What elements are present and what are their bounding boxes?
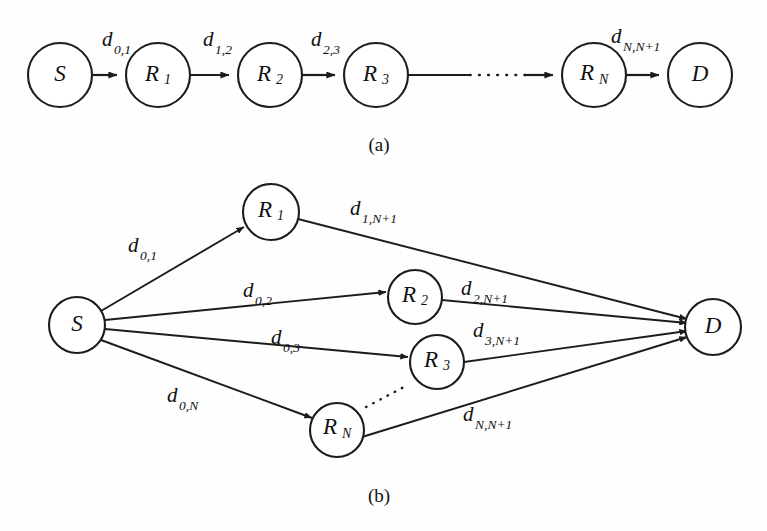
node-b-relay-3-sub: 3	[442, 358, 450, 373]
edge-label-a-R2-R3: d	[311, 27, 322, 51]
node-a-relay-2-sub: 2	[276, 72, 283, 87]
edge-b-RN-D	[362, 337, 687, 437]
edge-label-b-S-R3: d	[271, 325, 282, 349]
edge-label-a-R1-R2-sub: 1,2	[215, 42, 232, 57]
node-a-source-label: S	[54, 61, 66, 86]
panel-b: S R 1 R 2 R 3 R N D d 0,1 d 0,2 d 0,3 d …	[49, 184, 741, 507]
node-a-relay-2-label: R	[256, 61, 271, 86]
edge-label-b-RN-D-sub: N,N+1	[474, 417, 512, 432]
node-a-relay-n-sub: N	[598, 72, 609, 87]
edge-label-b-S-R3-sub: 0,3	[283, 340, 300, 355]
network-diagram-svg: S R 1 R 2 R 3 R N D d 0,1 d 1,2 d 2,3 d …	[0, 0, 767, 531]
caption-panel-b: (b)	[368, 485, 390, 507]
edge-label-b-S-R1-sub: 0,1	[140, 248, 157, 263]
node-b-relay-2-sub: 2	[421, 293, 428, 308]
edge-label-b-R3-D: d	[473, 318, 484, 342]
edge-label-a-R1-R2: d	[203, 27, 214, 51]
panel-a: S R 1 R 2 R 3 R N D d 0,1 d 1,2 d 2,3 d …	[28, 24, 732, 156]
node-a-relay-n-label: R	[579, 60, 594, 85]
node-b-source-label: S	[71, 311, 83, 336]
edge-b-S-R1	[101, 227, 244, 311]
node-a-relay-3-sub: 3	[381, 72, 389, 87]
node-b-relay-2-label: R	[401, 282, 416, 307]
edge-label-b-S-RN: d	[167, 383, 178, 407]
edge-label-b-S-R2: d	[243, 278, 254, 302]
node-b-destination-label: D	[704, 313, 722, 338]
edge-label-a-R2-R3-sub: 2,3	[323, 42, 340, 57]
edge-label-b-R2-D: d	[461, 276, 472, 300]
edge-label-b-S-R2-sub: 0,2	[255, 293, 272, 308]
edge-b-S-R3	[105, 329, 408, 357]
node-b-relay-n-sub: N	[341, 426, 352, 441]
edge-label-b-R3-D-sub: 3,N+1	[484, 333, 520, 348]
edge-label-a-S-R1: d	[102, 27, 113, 51]
node-a-relay-1-label: R	[144, 61, 159, 86]
node-a-relay-3-label: R	[362, 61, 377, 86]
edge-label-a-RN-D: d	[611, 24, 622, 48]
edge-label-b-RN-D: d	[463, 402, 474, 426]
node-b-relay-1-label: R	[257, 197, 272, 222]
node-a-destination-label: D	[691, 61, 709, 86]
figure-root: S R 1 R 2 R 3 R N D d 0,1 d 1,2 d 2,3 d …	[0, 0, 767, 531]
edge-label-b-S-RN-sub: 0,N	[179, 398, 199, 413]
node-a-relay-1-sub: 1	[164, 72, 171, 87]
edge-label-b-R2-D-sub: 2,N+1	[473, 291, 508, 306]
node-b-relay-n-label: R	[322, 414, 337, 439]
edge-label-a-RN-D-sub: N,N+1	[622, 39, 660, 54]
edge-label-a-S-R1-sub: 0,1	[114, 42, 131, 57]
node-b-relay-3-label: R	[423, 347, 438, 372]
edge-label-b-R1-D-sub: 1,N+1	[362, 211, 397, 226]
caption-panel-a: (a)	[368, 134, 389, 156]
edge-label-b-S-R1: d	[128, 233, 139, 257]
node-b-relay-1-sub: 1	[277, 208, 284, 223]
ellipsis-b-relays	[366, 387, 404, 407]
edge-label-b-R1-D: d	[350, 196, 361, 220]
edge-b-S-RN	[101, 340, 312, 418]
